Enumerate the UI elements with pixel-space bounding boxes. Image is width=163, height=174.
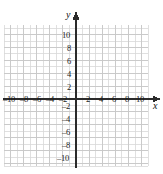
y-tick-label: 4	[67, 70, 71, 79]
x-tick-label: –4	[46, 95, 54, 104]
x-axis-label: x	[153, 101, 157, 111]
y-tick-label: 6	[67, 57, 71, 66]
y-tick-label: –6	[62, 128, 70, 137]
figure-background	[0, 0, 163, 174]
x-tick-label: 10	[136, 95, 144, 104]
x-tick-label: –8	[20, 95, 28, 104]
x-tick-label: 2	[86, 95, 90, 104]
x-tick-label: 4	[99, 95, 103, 104]
x-tick-label: –10	[3, 95, 15, 104]
y-axis-label: y	[66, 10, 70, 20]
y-tick-label: 10	[62, 31, 70, 40]
x-tick-label: –6	[33, 95, 41, 104]
y-tick-label: –2	[62, 102, 70, 111]
y-tick-label: –8	[62, 141, 70, 150]
y-tick-label: 8	[67, 44, 71, 53]
y-tick-label: 2	[67, 83, 71, 92]
x-tick-label: 6	[112, 95, 116, 104]
coordinate-grid-graphic	[0, 0, 163, 174]
y-tick-label: –4	[62, 115, 70, 124]
coordinate-plane-figure: –10 –8 –6 –4 –2 2 4 6 8 10 10 8 6 4 2 –2…	[0, 0, 163, 174]
x-tick-label: 8	[125, 95, 129, 104]
y-tick-label: –10	[57, 154, 69, 163]
